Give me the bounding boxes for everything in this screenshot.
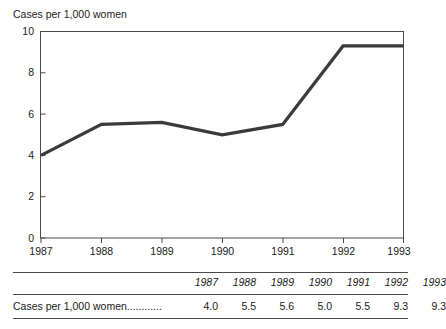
table-cell: 5.5	[332, 288, 370, 312]
y-tick-label: 2	[28, 190, 34, 202]
data-table: 1987 1988 1989 1990 1991 1992 1993 Cases…	[13, 266, 446, 312]
x-tick-label: 1990	[211, 245, 235, 257]
data-table-region: 1987 1988 1989 1990 1991 1992 1993 Cases…	[0, 266, 421, 329]
table-cell: 5.6	[256, 288, 294, 312]
x-tick-label: 1993	[387, 245, 411, 257]
table-cell: 9.3	[370, 288, 408, 312]
table-cell: 5.0	[294, 288, 332, 312]
table-column-header: 1993	[408, 266, 446, 288]
table-column-header: 1989	[256, 266, 294, 288]
table-column-header: 1987	[180, 266, 218, 288]
x-tick-label: 1991	[271, 245, 295, 257]
x-axis-labels: 1987 1988 1989 1990 1991 1992 1993	[29, 245, 411, 257]
x-tick-label: 1988	[90, 245, 114, 257]
table-row-label: Cases per 1,000 women............	[13, 288, 180, 312]
table-cell: 4.0	[180, 288, 218, 312]
table-header-row: 1987 1988 1989 1990 1991 1992 1993	[13, 266, 446, 288]
y-axis-ticks	[41, 32, 46, 239]
y-tick-label: 4	[28, 149, 34, 161]
x-tick-label: 1987	[29, 245, 53, 257]
table-column-header: 1990	[294, 266, 332, 288]
y-tick-label: 8	[28, 66, 34, 78]
table-rule-bottom	[13, 318, 408, 319]
data-series-line	[41, 46, 404, 155]
x-axis-ticks	[41, 238, 404, 243]
table-cell: 9.3	[408, 288, 446, 312]
table-row: Cases per 1,000 women............ 4.0 5.…	[13, 288, 446, 312]
y-tick-label: 0	[28, 232, 34, 244]
x-tick-label: 1989	[150, 245, 174, 257]
table-corner-header	[13, 266, 180, 288]
y-tick-label: 10	[22, 25, 34, 37]
line-chart: 10 8 6 4 2 0 1987 1988 1989 1990 1991 19…	[0, 0, 421, 266]
table-column-header: 1991	[332, 266, 370, 288]
table-column-header: 1992	[370, 266, 408, 288]
table-column-header: 1988	[218, 266, 256, 288]
chart-region: Cases per 1,000 women 10 8 6 4 2 0	[0, 0, 421, 266]
table-cell: 5.5	[218, 288, 256, 312]
y-axis-labels: 10 8 6 4 2 0	[22, 25, 34, 244]
x-tick-label: 1992	[332, 245, 356, 257]
y-tick-label: 6	[28, 108, 34, 120]
